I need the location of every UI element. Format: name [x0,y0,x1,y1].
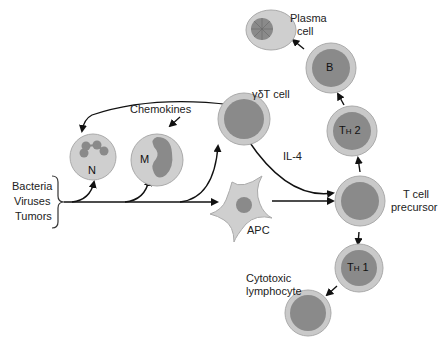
th2-main: T [339,124,346,136]
arrow-to-neutrophil [72,182,94,202]
label-chemokines: Chemokines [130,103,191,116]
diagram-canvas [0,0,442,352]
label-cytotoxic-1: Cytotoxic [246,272,291,285]
input-bacteria: Bacteria [12,180,52,193]
macrophage-cell [131,134,183,186]
th2-num: 2 [355,124,361,136]
arrow-precursor-to-th2 [358,158,360,172]
t-cell-precursor [335,176,385,226]
label-il4: IL-4 [283,150,302,163]
label-plasma-2: cell [297,25,314,38]
th1-main: T [347,261,354,273]
th1-label: TH 1 [347,261,369,273]
arrow-to-gdt [180,146,218,202]
arrow-th1-to-cytotoxic [327,286,337,295]
label-cytotoxic-2: lymphocyte [246,285,302,298]
th1-num: 1 [363,261,369,273]
arrow-il4 [248,140,333,194]
th2-label: TH 2 [339,124,361,136]
b-cell-label: B [326,61,333,73]
label-t-cell-precursor-2: precursor [391,201,437,214]
neutrophil-label: N [88,164,96,176]
arrow-b-to-plasma [293,40,304,49]
input-tumors: Tumors [15,210,52,223]
th2-sub: H [346,127,352,136]
th1-sub: H [354,264,360,273]
label-gdt-cell: γδT cell [252,88,290,101]
label-plasma-1: Plasma [290,12,327,25]
arrow-chemokine-to-m [170,117,180,126]
arrow-th2-to-b [338,94,344,105]
arrow-precursor-to-th1 [358,232,359,244]
label-apc: APC [247,224,270,237]
input-brace [52,176,64,228]
macrophage-label: M [140,153,149,165]
plasma-cell [246,10,296,50]
label-t-cell-precursor-1: T cell [391,188,441,201]
input-viruses: Viruses [14,195,50,208]
